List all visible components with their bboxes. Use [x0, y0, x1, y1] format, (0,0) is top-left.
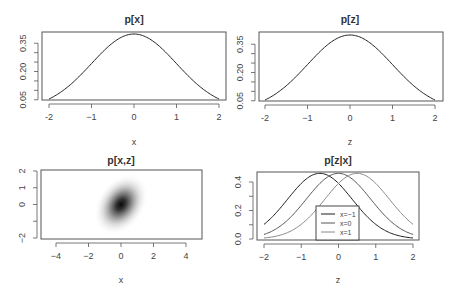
x-tick-label: 0 [336, 252, 341, 262]
chart-figure: p[x] -2−10120.050.200.35 x p[z] -2−10120… [0, 0, 463, 298]
x-tick-label: -2 [45, 112, 53, 122]
y-tick-label: 0.20 [18, 63, 28, 81]
x-tick-label: 4 [183, 251, 188, 261]
panel-pxz: p[x,z] −4−2024−2012 x [17, 154, 202, 285]
y-tick-label: −2 [17, 233, 27, 243]
plot-area: -2−10120.050.200.35 [18, 32, 226, 122]
x-axis-label: x [119, 275, 124, 285]
x-axis: -2−1012 [45, 104, 222, 122]
x-tick-label: 1 [390, 113, 395, 123]
plot-area: −4−2024−2012 [17, 163, 202, 261]
x-tick-label: −1 [302, 113, 312, 123]
y-tick-label: 1 [17, 185, 27, 190]
x-tick-label: 1 [373, 252, 378, 262]
x-tick-label: 2 [151, 251, 156, 261]
x-tick-label: −1 [296, 252, 306, 262]
series-line [49, 34, 219, 99]
y-tick-label: 2 [17, 168, 27, 173]
panel-pz-given-x: p[z|x] −2−10120.00.20.4x=−1x=0x=1 z [233, 154, 419, 285]
y-tick-label: 0.35 [18, 34, 28, 52]
panel-pz: p[z] -2−10120.050.200.35 z [235, 13, 443, 147]
x-tick-label: 2 [432, 113, 437, 123]
legend: x=−1x=0x=1 [316, 206, 359, 240]
plot-area: −2−10120.00.20.4x=−1x=0x=1 [233, 172, 419, 262]
figure: p[x] -2−10120.050.200.35 x p[z] -2−10120… [0, 0, 463, 298]
chart-title: p[x] [124, 13, 143, 25]
y-axis: 0.050.200.35 [235, 35, 255, 109]
x-tick-label: −2 [259, 252, 269, 262]
plot-frame [42, 32, 226, 100]
y-axis: 0.00.20.4 [233, 176, 253, 246]
legend-label: x=1 [340, 229, 352, 236]
panel-px: p[x] -2−10120.050.200.35 x [18, 13, 226, 147]
chart-title: p[z] [341, 13, 360, 25]
x-tick-label: 2 [410, 252, 415, 262]
y-tick-label: 0.2 [233, 204, 243, 217]
chart-title: p[z|x] [324, 154, 351, 166]
y-tick-label: 0.20 [235, 64, 245, 82]
density-heatmap [82, 163, 160, 246]
x-tick-label: 1 [174, 112, 179, 122]
y-tick-label: 0.0 [233, 233, 243, 246]
x-tick-label: 0 [131, 112, 136, 122]
y-tick-label: 0.35 [235, 35, 245, 53]
x-tick-label: −4 [51, 251, 61, 261]
x-tick-label: −2 [83, 251, 93, 261]
x-tick-label: −1 [86, 112, 96, 122]
density-blob [82, 163, 160, 246]
x-tick-label: 0 [118, 251, 123, 261]
x-axis-label: z [336, 275, 341, 285]
x-tick-label: 0 [347, 113, 352, 123]
plot-area: -2−10120.050.200.35 [235, 32, 443, 123]
y-axis: −2012 [17, 168, 37, 243]
x-tick-label: -2 [261, 113, 269, 123]
y-tick-label: 0.4 [233, 176, 243, 189]
y-tick-label: 0.05 [18, 91, 28, 109]
x-tick-label: 2 [216, 112, 221, 122]
x-axis-label: z [348, 137, 353, 147]
y-axis: 0.050.200.35 [18, 34, 38, 108]
y-tick-label: 0.05 [235, 92, 245, 110]
chart-title: p[x,z] [107, 154, 134, 166]
legend-label: x=−1 [340, 211, 356, 218]
x-axis-label: x [132, 137, 137, 147]
x-axis: -2−1012 [261, 105, 438, 123]
x-axis: −4−2024 [51, 243, 189, 261]
legend-label: x=0 [340, 220, 352, 227]
x-axis: −2−1012 [259, 244, 416, 262]
y-tick-label: 0 [17, 202, 27, 207]
series-line [265, 35, 435, 100]
plot-frame [259, 32, 443, 101]
